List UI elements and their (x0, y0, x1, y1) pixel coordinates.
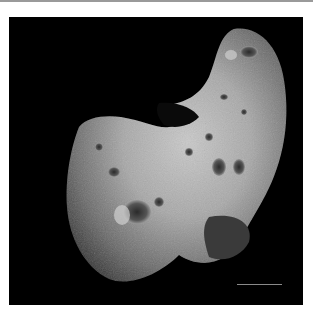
asteroid-photo (9, 17, 303, 305)
top-rule (0, 0, 313, 2)
asteroid-illustration (9, 17, 303, 305)
